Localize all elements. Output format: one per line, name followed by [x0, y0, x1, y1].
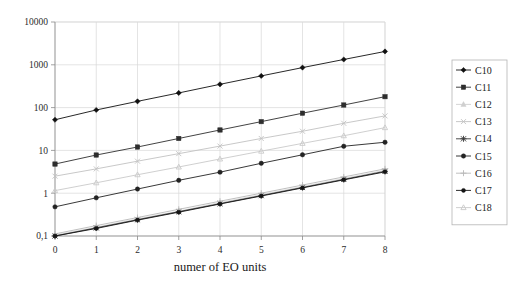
data-point-marker [53, 205, 57, 209]
x-axis-tick-labels: 012345678 [53, 245, 388, 255]
data-point-marker [176, 90, 181, 95]
legend-label: C16 [475, 168, 492, 179]
data-point-marker [52, 117, 57, 122]
data-point-marker [383, 170, 387, 174]
data-point-marker [177, 136, 181, 140]
data-point-marker [342, 144, 346, 148]
data-point-marker [94, 196, 98, 200]
y-tick-label: 10000 [24, 17, 48, 27]
data-point-marker [342, 178, 346, 182]
x-tick-label: 8 [383, 245, 388, 255]
data-point-marker [217, 82, 222, 87]
data-point-marker [135, 145, 139, 149]
legend-label: C13 [475, 116, 492, 127]
x-tick-label: 3 [176, 245, 181, 255]
chart-legend[interactable]: C10C11C12C13C14C15C16C17C18 [452, 60, 507, 225]
data-point-marker [301, 186, 305, 190]
y-axis-tick-labels: 0,1110100100010000 [24, 17, 48, 241]
data-point-marker [259, 161, 263, 165]
x-axis-title: numer of EO units [174, 260, 267, 274]
data-point-marker [300, 153, 304, 157]
data-point-marker [135, 187, 139, 191]
data-point-marker [177, 178, 181, 182]
x-tick-label: 5 [259, 245, 264, 255]
y-tick-label: 10 [39, 146, 49, 156]
legend-label: C11 [475, 82, 491, 93]
data-point-marker [94, 107, 99, 112]
legend-label: C10 [475, 65, 492, 76]
log-line-chart: 0,1110100100010000 012345678 numer of EO… [0, 0, 525, 285]
data-point-marker [383, 140, 387, 144]
data-point-marker [341, 57, 346, 62]
data-point-marker [461, 85, 465, 89]
legend-label: C14 [475, 133, 492, 144]
data-point-marker [53, 162, 57, 166]
data-point-marker [259, 194, 263, 198]
x-tick-label: 2 [135, 245, 140, 255]
data-point-marker [177, 210, 181, 214]
x-tick-label: 7 [341, 245, 346, 255]
data-point-marker [94, 226, 98, 230]
x-tick-label: 0 [53, 245, 58, 255]
data-point-marker [462, 188, 466, 192]
data-point-marker [300, 111, 304, 115]
data-point-marker [342, 103, 346, 107]
data-point-marker [383, 94, 387, 98]
chart-container: 0,1110100100010000 012345678 numer of EO… [0, 0, 525, 285]
legend-label: C12 [475, 99, 492, 110]
legend-label: C18 [475, 202, 492, 213]
data-point-marker [461, 136, 467, 142]
x-tick-label: 1 [94, 245, 99, 255]
data-point-marker [382, 49, 387, 54]
data-point-marker [94, 153, 98, 157]
data-point-marker [135, 99, 140, 104]
data-point-marker [259, 119, 263, 123]
x-tick-label: 4 [218, 245, 223, 255]
data-point-marker [259, 73, 264, 78]
data-point-marker [461, 154, 465, 158]
y-tick-label: 1000 [29, 60, 48, 70]
x-tick-label: 6 [300, 245, 305, 255]
data-point-marker [218, 170, 222, 174]
data-point-marker [218, 202, 222, 206]
data-point-marker [136, 218, 140, 222]
y-tick-label: 100 [34, 103, 49, 113]
legend-label: C15 [475, 151, 492, 162]
data-point-marker [53, 234, 57, 238]
x-axis-title-text: numer of EO units [174, 260, 267, 274]
data-point-marker [300, 65, 305, 70]
data-point-marker [218, 128, 222, 132]
legend-label: C17 [475, 185, 492, 196]
y-tick-label: 0,1 [36, 231, 48, 241]
y-tick-label: 1 [43, 189, 48, 199]
